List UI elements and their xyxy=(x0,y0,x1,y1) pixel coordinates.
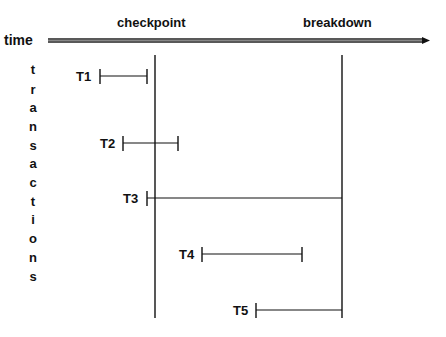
breakdown-label: breakdown xyxy=(303,16,372,29)
transaction-t2-bar xyxy=(123,136,178,151)
vertical-letter: n xyxy=(27,120,39,133)
checkpoint-label: checkpoint xyxy=(117,16,186,29)
vertical-letter: a xyxy=(27,101,39,114)
transaction-t2-label: T2 xyxy=(100,137,115,150)
vertical-letter: o xyxy=(27,232,39,245)
vertical-letter: r xyxy=(27,83,39,96)
vertical-letter: i xyxy=(27,213,39,226)
transaction-t4-label: T4 xyxy=(179,248,194,261)
transaction-t5-bar xyxy=(256,303,342,318)
transaction-t5-label: T5 xyxy=(233,304,248,317)
diagram-canvas xyxy=(0,0,446,337)
transaction-t1-label: T1 xyxy=(76,70,91,83)
vertical-letter: s xyxy=(27,139,39,152)
time-label: time xyxy=(4,33,33,47)
vertical-letter: t xyxy=(27,63,39,76)
vertical-letter: c xyxy=(27,176,39,189)
vertical-letter: a xyxy=(27,157,39,170)
transaction-t3-label: T3 xyxy=(123,192,138,205)
transaction-t3-bar xyxy=(147,191,342,206)
time-axis xyxy=(48,37,430,44)
arrow-head-icon xyxy=(422,37,430,44)
vertical-letter: n xyxy=(27,251,39,264)
transaction-t1-bar xyxy=(100,69,147,84)
vertical-letter: t xyxy=(27,195,39,208)
transaction-t4-bar xyxy=(202,247,302,262)
vertical-letter: s xyxy=(27,270,39,283)
